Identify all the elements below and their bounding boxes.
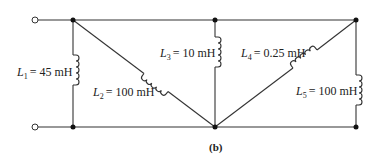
junction-dot [71,125,76,130]
junction-dot [354,125,359,130]
junction-dot [354,18,359,23]
label-l3: L3= 10 mH [159,46,216,62]
inductor-l2 [73,20,215,127]
terminal-bottom [32,124,38,130]
inductor-l4 [215,20,356,127]
junction-dot [213,125,218,130]
junction-dot [213,18,218,23]
inductor-l5 [356,20,362,127]
junction-dot [71,18,76,23]
label-l5: L5= 100 mH [295,84,358,100]
label-l4: L4= 0.25 mH [240,46,306,62]
label-l2: L2= 100 mH [92,85,155,101]
figure-caption: (b) [209,141,223,154]
inductor-l3 [215,20,221,127]
label-l1: L1= 45 mH [16,65,73,81]
inductor-network-diagram: L1= 45 mH L2= 100 mH L3= 10 mH L4= 0.25 … [0,0,376,165]
inductor-l1 [73,20,79,127]
terminal-top [32,17,38,23]
